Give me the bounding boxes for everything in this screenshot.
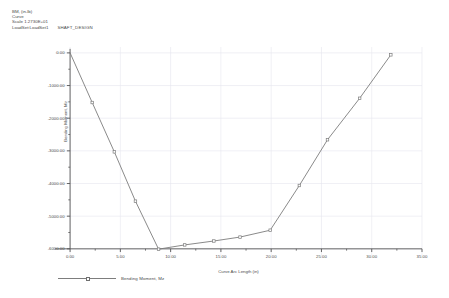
x-axis: 0.005.0010.0015.0020.0025.0030.0035.00 [55, 249, 428, 260]
legend-marker [86, 277, 90, 281]
svg-text:5.00: 5.00 [116, 254, 125, 259]
y-axis-title: Bending Moment, Mz [63, 77, 68, 167]
svg-text:20.00: 20.00 [266, 254, 277, 259]
grid-lines [55, 47, 422, 257]
svg-text:-6000.00: -6000.00 [48, 246, 66, 251]
x-axis-title: Curve Arc Length (in) [55, 269, 422, 274]
svg-text:15.00: 15.00 [216, 254, 227, 259]
legend-label-bending-moment: Bending Moment, Mz [121, 276, 164, 281]
chart-plot-area: 0.005.0010.0015.0020.0025.0030.0035.00 0… [55, 47, 422, 257]
svg-text:25.00: 25.00 [316, 254, 327, 259]
plot-header: BM, (in-lb) Curve Scale 1.2730E+01 LoadS… [12, 9, 93, 30]
chart-legend: Bending Moment, Mz [58, 275, 164, 281]
chart-svg: 0.005.0010.0015.0020.0025.0030.0035.00 0… [55, 47, 422, 257]
svg-text:35.00: 35.00 [417, 254, 428, 259]
svg-text:0.00: 0.00 [56, 50, 65, 55]
svg-text:30.00: 30.00 [366, 254, 377, 259]
svg-text:10.00: 10.00 [165, 254, 176, 259]
header-design-name: SHAFT_DESIGN [57, 25, 92, 30]
series-bending-moment-mz [70, 53, 392, 251]
svg-text:-5000.00: -5000.00 [48, 214, 66, 219]
header-loadset: LoadSet:LoadSet1 [12, 25, 48, 30]
header-loadset-row: LoadSet:LoadSet1SHAFT_DESIGN [12, 25, 93, 30]
svg-text:0.00: 0.00 [66, 254, 75, 259]
legend-swatch-bending-moment [58, 275, 116, 281]
svg-text:-4000.00: -4000.00 [48, 181, 66, 186]
